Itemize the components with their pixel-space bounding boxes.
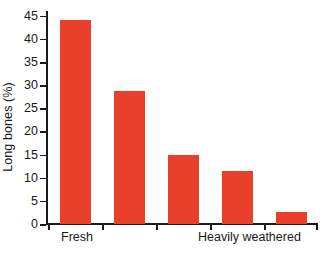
y-tick-mark xyxy=(40,85,46,87)
bar xyxy=(168,155,199,224)
y-tick-label: 30 xyxy=(24,79,38,92)
bar xyxy=(60,20,91,224)
plot-area: 051015202530354045 xyxy=(48,11,318,224)
x-axis-tick xyxy=(48,224,50,230)
x-axis-tick xyxy=(316,224,318,230)
y-axis-title: Long bones (%) xyxy=(0,0,16,254)
y-tick-label: 40 xyxy=(24,33,38,46)
y-tick-label: 10 xyxy=(24,171,38,184)
x-axis-tick xyxy=(102,224,104,230)
x-axis-label-right: Heavily weathered xyxy=(198,231,301,244)
y-tick-mark xyxy=(40,62,46,64)
x-axis-label-left: Fresh xyxy=(61,231,93,244)
y-tick-mark xyxy=(40,224,46,226)
y-tick-label: 25 xyxy=(24,102,38,115)
y-tick-mark xyxy=(40,39,46,41)
y-tick-label: 0 xyxy=(31,218,38,231)
bar-chart: Long bones (%) 051015202530354045 Fresh … xyxy=(0,0,331,254)
y-tick-mark xyxy=(40,201,46,203)
bar xyxy=(222,171,253,224)
y-tick-label: 5 xyxy=(31,195,38,208)
y-tick-mark xyxy=(40,108,46,110)
y-tick-label: 20 xyxy=(24,125,38,138)
y-tick-label: 35 xyxy=(24,56,38,69)
bar xyxy=(114,91,145,224)
y-tick-label: 15 xyxy=(24,148,38,161)
x-axis-tick xyxy=(156,224,158,230)
y-tick-label: 45 xyxy=(24,9,38,22)
y-tick-mark xyxy=(40,178,46,180)
y-tick-mark xyxy=(40,131,46,133)
y-tick-mark xyxy=(40,16,46,18)
y-tick-mark xyxy=(40,155,46,157)
bar xyxy=(276,212,307,225)
